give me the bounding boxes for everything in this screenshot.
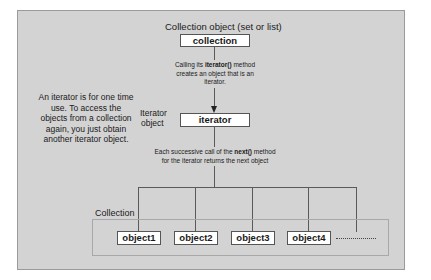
collection-object-label: Collection object (set or list) bbox=[165, 21, 282, 32]
object3-box: object3 bbox=[231, 231, 275, 245]
arrowhead-down-icon bbox=[211, 106, 217, 113]
collection-group-label: Collection bbox=[95, 208, 135, 218]
continuation-dots bbox=[336, 238, 376, 239]
object4-box: object4 bbox=[287, 231, 331, 245]
next-method-note: Each successive call of the next() metho… bbox=[150, 147, 280, 166]
iterator-box: iterator bbox=[180, 113, 250, 127]
side-note: An iterator is for one time use. To acce… bbox=[22, 92, 150, 145]
object2-box: object2 bbox=[174, 231, 218, 245]
iterator-call-note: Calling its iterator() method creates an… bbox=[170, 60, 260, 88]
collection-box: collection bbox=[180, 34, 250, 47]
object1-box: object1 bbox=[117, 231, 161, 245]
branch-line bbox=[138, 187, 357, 188]
